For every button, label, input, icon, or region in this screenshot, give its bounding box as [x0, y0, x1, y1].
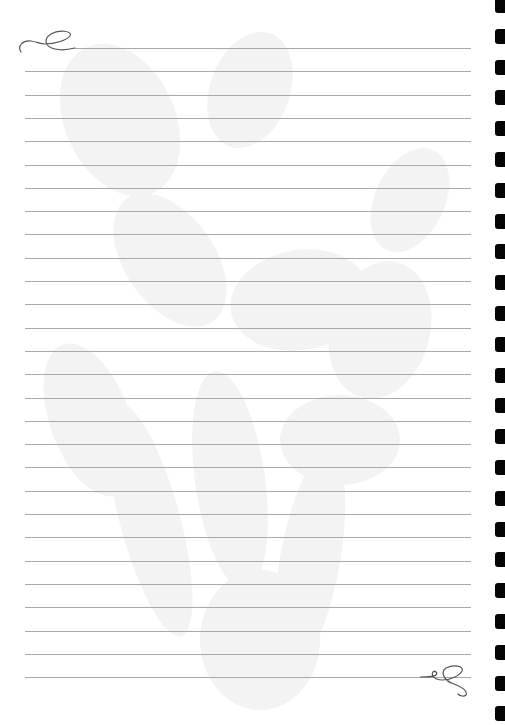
- binding-hole: [495, 706, 505, 721]
- binding-hole: [495, 398, 505, 413]
- ruled-line: [25, 561, 471, 562]
- ruled-line: [25, 351, 471, 352]
- ruled-line: [25, 281, 471, 282]
- ruled-line: [25, 631, 471, 632]
- ruled-line: [25, 141, 471, 142]
- ruled-line: [25, 584, 471, 585]
- binding-hole: [495, 429, 505, 444]
- ruled-line: [25, 165, 471, 166]
- ruled-line: [25, 188, 471, 189]
- ruled-line: [25, 258, 471, 259]
- binding-hole: [495, 552, 505, 567]
- binding-hole: [495, 152, 505, 167]
- ruled-line: [25, 491, 471, 492]
- binding-hole: [495, 645, 505, 660]
- ruled-line: [25, 328, 471, 329]
- binding-hole: [495, 29, 505, 44]
- binding-hole: [495, 491, 505, 506]
- ruled-line: [25, 374, 471, 375]
- ruled-line: [25, 677, 471, 678]
- binding-hole: [495, 275, 505, 290]
- ruled-line: [25, 444, 471, 445]
- binding-hole: [495, 583, 505, 598]
- ruled-line: [25, 537, 471, 538]
- top-left-swirl-icon: [15, 30, 85, 60]
- binding-hole: [495, 368, 505, 383]
- binding-hole: [495, 214, 505, 229]
- bottom-right-swirl-icon: [420, 663, 480, 698]
- binding-hole: [495, 676, 505, 691]
- ruled-line: [25, 118, 471, 119]
- ruled-line: [25, 421, 471, 422]
- notepaper-page: [0, 0, 505, 725]
- ruled-line: [25, 71, 471, 72]
- ruled-line: [75, 48, 471, 49]
- binding-hole: [495, 244, 505, 259]
- binding-hole: [495, 121, 505, 136]
- binding-hole: [495, 337, 505, 352]
- binding-hole: [495, 614, 505, 629]
- binding-hole: [495, 460, 505, 475]
- ruled-line: [25, 467, 471, 468]
- binding-hole: [495, 60, 505, 75]
- ruled-line: [25, 654, 471, 655]
- binding-hole: [495, 306, 505, 321]
- binding-hole: [495, 0, 505, 13]
- floral-watermark: [0, 0, 505, 725]
- ruled-line: [25, 398, 471, 399]
- ruled-line: [25, 607, 471, 608]
- ruled-line: [25, 211, 471, 212]
- ruled-line: [25, 234, 471, 235]
- ruled-line: [25, 304, 471, 305]
- binding-hole: [495, 522, 505, 537]
- binding-hole: [495, 90, 505, 105]
- binding-hole: [495, 183, 505, 198]
- ruled-line: [25, 95, 471, 96]
- ruled-line: [25, 514, 471, 515]
